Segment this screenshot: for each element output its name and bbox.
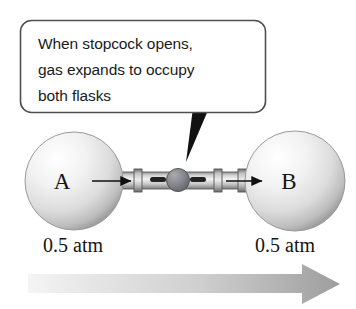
flask-b-pressure-label: 0.5 atm: [255, 234, 315, 256]
stopcock-knob: [167, 169, 190, 192]
gas-expansion-diagram: When stopcock opens, gas expands to occu…: [0, 0, 356, 309]
diagram-canvas: When stopcock opens, gas expands to occu…: [0, 0, 356, 309]
expansion-direction-arrow: [28, 264, 340, 304]
stopcock-valve: [167, 169, 190, 192]
flask-a: A: [25, 132, 131, 230]
flask-b-label: B: [281, 169, 296, 194]
tube-collar-left-inner: [134, 169, 142, 192]
expansion-arrow-shape: [28, 264, 340, 304]
flask-b: B: [226, 131, 345, 231]
tube-bore-dash-right: [190, 177, 206, 182]
tube-collar-right-inner: [214, 169, 222, 192]
flask-a-pressure-label: 0.5 atm: [43, 234, 103, 256]
callout-tail: [186, 108, 209, 162]
callout-line-2: gas expands to occupy: [38, 61, 195, 78]
callout-line-1: When stopcock opens,: [38, 35, 193, 52]
callout-line-3: both flasks: [38, 87, 111, 104]
tube-bore-dash-left: [150, 177, 166, 182]
flask-a-label: A: [54, 169, 71, 194]
